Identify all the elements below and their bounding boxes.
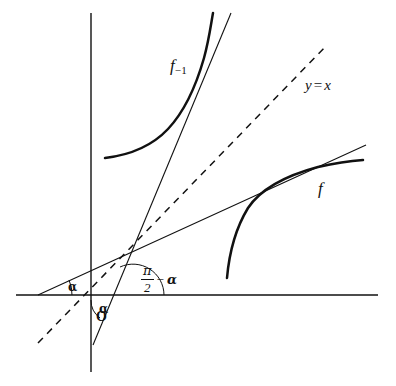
y-equals-x-rhs: x — [324, 77, 331, 93]
f-inverse-subscript: −1 — [175, 64, 187, 76]
minus-operator: − — [156, 273, 165, 286]
y-equals-x-operator: = — [312, 77, 324, 93]
curve-f-inverse — [105, 13, 213, 158]
fraction-denominator: 2 — [142, 281, 153, 295]
angle-label-pi-over-two-minus-alpha: π 2 − α — [141, 264, 177, 294]
fraction-numerator: π — [141, 264, 154, 278]
angle-label-alpha-lower: α — [99, 303, 108, 315]
diagram-canvas — [0, 0, 396, 386]
identity-line-y-equals-x — [38, 46, 326, 343]
angle-label-alpha-upper: α — [68, 281, 77, 293]
fraction-pi-over-two: π 2 — [141, 264, 154, 294]
inverse-function-tangent-diagram: f−1 f y=x O α α π 2 − α — [0, 0, 396, 386]
y-equals-x-lhs: y — [305, 77, 312, 93]
curve-label-f-inverse: f−1 — [170, 57, 187, 76]
line-label-y-equals-x: y=x — [305, 78, 331, 93]
curve-label-f: f — [318, 180, 323, 197]
alpha-term: α — [167, 273, 177, 286]
